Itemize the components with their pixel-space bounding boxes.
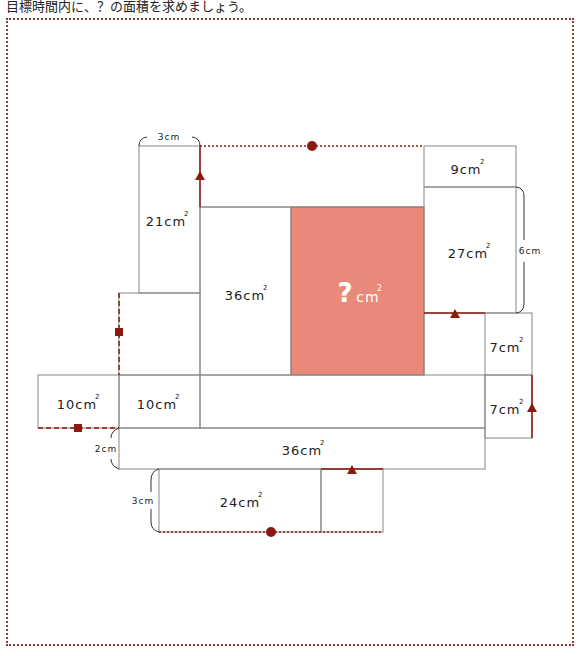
svg-text:2: 2 xyxy=(377,284,382,293)
area-diagram: 3cm 6cm 2cm 3cm 21cm 2 36cm 2 ? cm 2 9cm… xyxy=(0,0,582,656)
dim-left-2cm: 2cm xyxy=(95,444,117,454)
svg-text:2: 2 xyxy=(486,242,490,250)
rect-below-21 xyxy=(119,293,200,375)
label-10-right: 10cm xyxy=(137,397,177,412)
dim-right-6cm: 6cm xyxy=(519,246,541,256)
label-7-lower: 7cm xyxy=(489,402,520,417)
label-9: 9cm xyxy=(450,162,481,177)
svg-text:2: 2 xyxy=(184,210,188,218)
label-36-vertical: 36cm xyxy=(225,288,265,303)
label-21: 21cm xyxy=(146,214,186,229)
rect-bottom-small xyxy=(321,469,383,532)
label-36-horizontal: 36cm xyxy=(282,443,322,458)
svg-text:2: 2 xyxy=(480,158,484,166)
svg-text:2: 2 xyxy=(519,336,523,344)
svg-text:2: 2 xyxy=(519,398,523,406)
triangle-marker-right xyxy=(527,403,537,412)
dim-bottom-3cm: 3cm xyxy=(132,496,154,506)
triangle-marker-left xyxy=(195,171,205,180)
svg-text:2: 2 xyxy=(175,393,179,401)
label-7-upper: 7cm xyxy=(489,340,520,355)
circle-marker-top xyxy=(307,141,317,151)
svg-text:2: 2 xyxy=(263,284,267,292)
svg-text:2: 2 xyxy=(95,393,99,401)
label-10-left: 10cm xyxy=(57,397,97,412)
rect-middle-wide xyxy=(200,375,485,428)
square-marker-vertical xyxy=(115,328,123,336)
dim-top-3cm: 3cm xyxy=(158,132,180,142)
svg-text:2: 2 xyxy=(320,439,324,447)
label-24: 24cm xyxy=(220,495,260,510)
circle-marker-bottom xyxy=(266,527,276,537)
svg-text:2: 2 xyxy=(258,491,262,499)
square-marker-horizontal xyxy=(74,424,82,432)
label-27: 27cm xyxy=(448,246,488,261)
label-unknown: ? xyxy=(337,278,352,308)
